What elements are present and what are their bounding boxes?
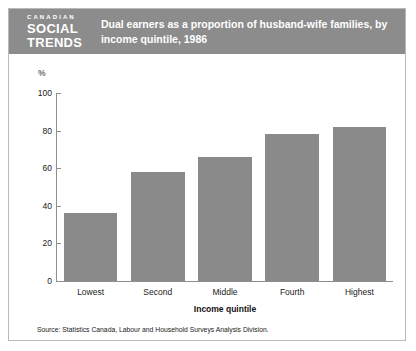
y-tick-label: 60 bbox=[12, 163, 52, 173]
y-tick-label: 20 bbox=[12, 238, 52, 248]
y-tick-mark bbox=[57, 281, 61, 282]
bar bbox=[198, 157, 252, 281]
y-axis-label: % bbox=[38, 68, 46, 78]
chart-title: Dual earners as a proportion of husband-… bbox=[97, 17, 405, 45]
bar-series bbox=[57, 93, 393, 281]
bar bbox=[265, 134, 319, 281]
x-tick-label: Second bbox=[124, 287, 191, 297]
bar bbox=[131, 172, 185, 281]
y-tick-label: 40 bbox=[12, 201, 52, 211]
y-tick-label: 0 bbox=[12, 276, 52, 286]
masthead-line-1: SOCIAL bbox=[27, 22, 97, 36]
bar bbox=[333, 127, 387, 281]
x-tick-label: Fourth bbox=[259, 287, 326, 297]
x-axis-title: Income quintile bbox=[57, 304, 393, 314]
x-axis-line bbox=[56, 281, 393, 282]
y-tick-label: 100 bbox=[12, 88, 52, 98]
source-note: Source: Statistics Canada, Labour and Ho… bbox=[37, 326, 269, 333]
masthead-line-2: TRENDS bbox=[27, 36, 97, 50]
chart-figure: CANADIAN SOCIAL TRENDS Dual earners as a… bbox=[0, 0, 416, 351]
header-band: CANADIAN SOCIAL TRENDS Dual earners as a… bbox=[9, 9, 405, 54]
x-tick-label: Lowest bbox=[57, 287, 124, 297]
publication-masthead: CANADIAN SOCIAL TRENDS bbox=[9, 14, 97, 50]
x-tick-label: Middle bbox=[191, 287, 258, 297]
masthead-kicker: CANADIAN bbox=[27, 14, 97, 20]
x-tick-label: Highest bbox=[326, 287, 393, 297]
y-tick-label: 80 bbox=[12, 126, 52, 136]
plot-area: % 020406080100 LowestSecondMiddleFourthH… bbox=[9, 54, 405, 341]
bar bbox=[64, 213, 118, 281]
